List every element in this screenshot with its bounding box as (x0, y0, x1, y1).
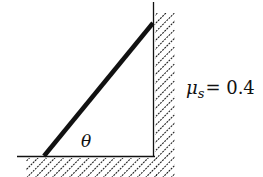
wall-hatching (155, 13, 175, 177)
floor-hatching (26, 158, 157, 177)
friction-coefficient-label: μs= 0.4 (186, 77, 255, 101)
mu-symbol: μ (186, 77, 198, 98)
mu-subscript: s (198, 86, 205, 101)
rod (44, 23, 153, 156)
mu-value: = 0.4 (205, 77, 254, 98)
ladder-diagram: θ μs= 0.4 (0, 0, 263, 177)
angle-label: θ (81, 131, 91, 151)
